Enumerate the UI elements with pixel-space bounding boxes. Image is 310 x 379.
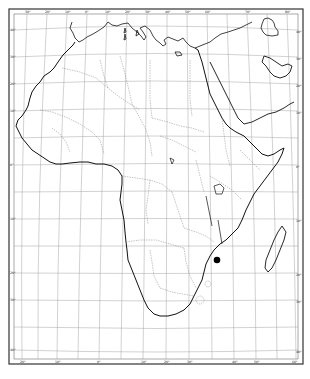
tick-label: 10°	[296, 111, 302, 115]
graticule-meridians	[22, 14, 296, 359]
tick-label: 20°	[296, 84, 302, 88]
map-frame-outer	[9, 9, 303, 364]
tick-label: 10°	[296, 219, 302, 223]
tick-label: 0°	[85, 10, 89, 14]
tick-label: 20°	[20, 360, 26, 364]
tick-label: 10°	[65, 10, 71, 14]
tick-label: 30°	[10, 298, 16, 302]
great-lakes	[170, 158, 224, 244]
left-tick-labels: 40° 30° 20° 10° 0° 10° 20° 30° 40°	[10, 28, 16, 352]
top-tick-labels: 30° 20° 10° 0° 10° 20° 30° 40° 50° 60° 7…	[25, 10, 291, 14]
tick-label: 10°	[105, 10, 111, 14]
country-borders	[40, 56, 260, 296]
tick-label: 20°	[45, 10, 51, 14]
tick-label: 30°	[145, 10, 151, 14]
tick-label: 0°	[296, 165, 300, 169]
tick-label: 10°	[141, 360, 147, 364]
tick-label: 50°	[254, 360, 260, 364]
tick-label: 60°	[292, 360, 298, 364]
tick-label: 80°	[285, 10, 291, 14]
tick-label: 10°	[10, 217, 16, 221]
tick-label: 60°	[205, 10, 211, 14]
tick-label: 40°	[165, 10, 171, 14]
tick-label: 50°	[185, 10, 191, 14]
tick-label: 10°	[10, 109, 16, 113]
tick-label: 20°	[296, 273, 302, 277]
tick-label: 30°	[296, 300, 302, 304]
tick-label: 10°	[55, 360, 61, 364]
tick-label: 30°	[187, 360, 193, 364]
tick-label: 70°	[245, 10, 251, 14]
tick-label: 40°	[296, 30, 302, 34]
tick-label: 20°	[125, 10, 131, 14]
eswatini-outline	[205, 281, 211, 287]
tick-label: 20°	[164, 360, 170, 364]
tick-label: 40°	[10, 28, 16, 32]
lesotho-outline	[196, 296, 204, 304]
persian-gulf-coast	[262, 56, 292, 78]
tick-label: 40°	[10, 348, 16, 352]
tick-label: 30°	[296, 57, 302, 61]
tick-label: 0°	[97, 360, 101, 364]
tick-label: 30°	[25, 10, 31, 14]
arabia-coastline	[210, 62, 294, 124]
location-marker[interactable]	[214, 257, 221, 264]
tick-label: 30°	[10, 55, 16, 59]
tick-label: 40°	[232, 360, 238, 364]
caspian-sea	[261, 18, 278, 36]
tick-label: 20°	[10, 82, 16, 86]
tick-label: 20°	[10, 271, 16, 275]
tick-label: 40°	[296, 350, 302, 354]
bottom-tick-labels: 20° 10° 0° 10° 20° 30° 40° 50° 60°	[20, 360, 298, 364]
africa-outline-map: 30° 20° 10° 0° 10° 20° 30° 40° 50° 60° 7…	[0, 0, 310, 379]
tick-label: 0°	[10, 163, 14, 167]
